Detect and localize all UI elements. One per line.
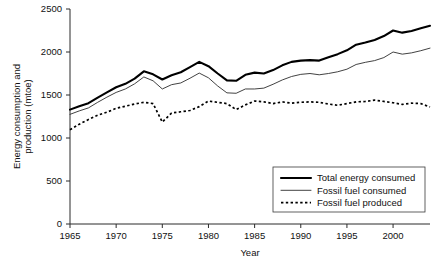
y-tick-label: 2500 <box>41 3 62 14</box>
x-tick-label: 2000 <box>383 230 404 241</box>
series-layer <box>70 26 430 130</box>
y-axis-title-line2: production (mtoe) <box>22 79 33 153</box>
x-tick-label: 1995 <box>336 230 357 241</box>
x-tick-label: 1990 <box>290 230 311 241</box>
x-tick-label: 1965 <box>59 230 80 241</box>
x-axis-title: Year <box>240 247 259 258</box>
series-line <box>70 26 430 110</box>
energy-line-chart: 0500100015002000250019651970197519801985… <box>0 0 434 275</box>
y-tick-label: 500 <box>46 175 62 186</box>
x-tick-label: 1980 <box>198 230 219 241</box>
x-tick-label: 1985 <box>244 230 265 241</box>
legend-item-label[interactable]: Fossil fuel produced <box>317 197 402 208</box>
series-line <box>70 100 430 130</box>
y-axis-title-line1: Energy consumption and <box>11 64 22 169</box>
figure: 0500100015002000250019651970197519801985… <box>0 0 434 275</box>
y-tick-label: 1500 <box>41 89 62 100</box>
y-tick-label: 2000 <box>41 46 62 57</box>
y-tick-label: 1000 <box>41 132 62 143</box>
legend[interactable]: Total energy consumedFossil fuel consume… <box>273 167 425 212</box>
legend-item-label[interactable]: Fossil fuel consumed <box>317 185 406 196</box>
series-line <box>70 48 430 114</box>
x-tick-label: 1975 <box>152 230 173 241</box>
legend-item-label[interactable]: Total energy consumed <box>317 172 415 183</box>
x-tick-label: 1970 <box>106 230 127 241</box>
y-tick-label: 0 <box>57 218 62 229</box>
